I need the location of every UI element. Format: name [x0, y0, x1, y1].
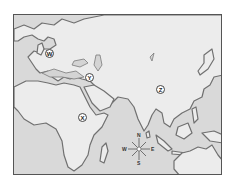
map-frame: W Y Z X N S W E: [13, 14, 222, 175]
marker-z[interactable]: Z: [156, 85, 165, 94]
compass-north-label: N: [137, 132, 141, 138]
new-guinea: [202, 131, 222, 143]
sumatra: [156, 135, 172, 151]
compass-rose: N S W E: [124, 132, 154, 166]
australia: [174, 145, 222, 175]
compass-east-label: E: [151, 146, 154, 152]
map-landmasses: [14, 15, 222, 175]
marker-y[interactable]: Y: [85, 73, 94, 82]
borneo: [176, 123, 192, 139]
philippines: [192, 107, 198, 123]
marker-w[interactable]: W: [45, 49, 54, 58]
compass-west-label: W: [122, 146, 127, 152]
marker-x[interactable]: X: [78, 113, 87, 122]
madagascar: [100, 143, 108, 163]
compass-south-label: S: [137, 160, 140, 166]
